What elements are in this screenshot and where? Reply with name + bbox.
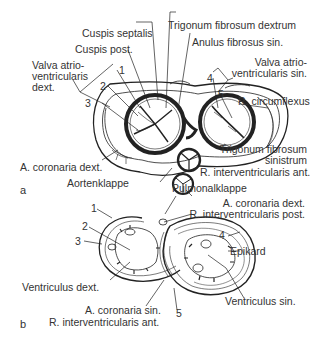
label-epikard: Epikard	[230, 246, 266, 257]
number-3-b: 3	[75, 236, 81, 247]
panel-letter-a: a	[20, 184, 26, 196]
heart-anatomy-figure: Cuspis septalis Cuspis post. Valva atrio…	[0, 0, 321, 338]
label-trigonum-fibrosum-sinistrum-line2: sinistrum	[265, 155, 307, 166]
number-4-a: 4	[207, 73, 213, 84]
label-valva-av-dext-line3: dext.	[32, 82, 55, 93]
label-r-interventricularis-ant-b: R. interventricularis ant.	[49, 317, 159, 328]
label-pulmonalklappe: Pulmonalklappe	[172, 183, 247, 194]
number-4-b: 4	[219, 230, 225, 241]
label-ventriculus-sin: Ventriculus sin.	[225, 296, 296, 307]
label-valva-av-sin-line2: ventricularis sin.	[232, 68, 307, 79]
number-5-b: 5	[176, 308, 182, 319]
label-trigonum-fibrosum-dextrum: Trigonum fibrosum dextrum	[168, 20, 296, 31]
number-5-a: 5	[218, 89, 224, 100]
label-a-coronaria-sin: A. coronaria sin.	[85, 305, 161, 316]
number-1-b: 1	[91, 203, 97, 214]
panel-letter-b: b	[20, 318, 26, 330]
label-ventriculus-dext: Ventriculus dext.	[22, 282, 99, 293]
label-r-interventricularis-post: R. interventricularis post.	[189, 209, 305, 220]
label-a-coronaria-dext-a: A. coronaria dext.	[20, 162, 102, 173]
number-2-b: 2	[82, 221, 88, 232]
label-aortenklappe: Aortenklappe	[67, 178, 129, 189]
label-anulus-fibrosus-sin: Anulus fibrosus sin.	[192, 37, 283, 48]
label-r-interventricularis-ant-a: R. interventricularis ant.	[200, 167, 310, 178]
label-cuspis-post: Cuspis post.	[75, 44, 133, 55]
number-3-a: 3	[85, 98, 91, 109]
number-2-a: 2	[100, 81, 106, 92]
number-1-a: 1	[119, 65, 125, 76]
label-cuspis-septalis: Cuspis septalis	[82, 28, 153, 39]
label-r-circumflexus: R. circumflexus	[238, 96, 310, 107]
